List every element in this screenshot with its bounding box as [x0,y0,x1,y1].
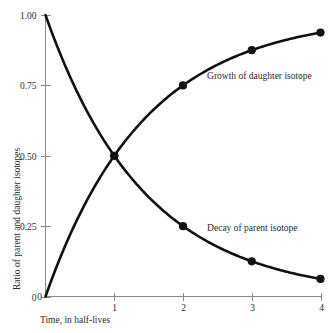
x-tick-label: 2 [181,303,186,313]
figure-container: 00.250.500.751.00 01234 Growth of daught… [0,0,332,333]
data-point-marker [316,275,324,283]
series-annotation-label: Decay of parent isotope [207,223,297,233]
x-tick-label: 3 [250,303,255,313]
data-point-marker [179,81,187,89]
x-tick-label: 4 [319,303,324,313]
y-axis-title: Ratio of parent and daughter isotopes [12,147,22,290]
decay-growth-chart: 00.250.500.751.00 01234 Growth of daught… [0,0,332,333]
data-point-marker [110,152,118,160]
x-tick-label: 1 [112,303,117,313]
curve-decay-parent [46,15,321,279]
x-axis-title: Time, in half-lives [40,315,110,325]
chart-axes [45,15,321,297]
x-axis-tick-labels: 01234 [37,292,324,313]
y-tick-label: 0.50 [20,152,37,162]
series-annotation-label: Growth of daughter isotope [207,71,312,81]
data-point-marker [248,257,256,265]
chart-annotations: Growth of daughter isotopeDecay of paren… [207,71,312,233]
y-tick-label: 1.00 [20,11,37,21]
y-tick-label: 0 [32,293,37,303]
data-point-marker [248,46,256,54]
chart-data-markers [110,28,324,283]
x-tick-label: 0 [37,292,42,302]
y-tick-label: 0.25 [20,222,37,232]
data-point-marker [179,222,187,230]
y-tick-label: 0.75 [20,81,37,91]
data-point-marker [316,28,324,36]
chart-curves [46,15,321,297]
y-axis-tick-labels: 00.250.500.751.00 [20,11,37,303]
